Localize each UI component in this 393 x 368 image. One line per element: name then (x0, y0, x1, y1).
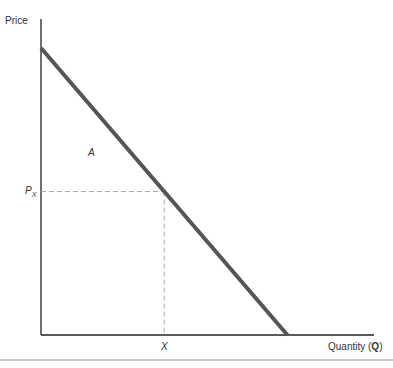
price-label: PX (25, 185, 37, 198)
y-axis-label: Price (5, 15, 28, 26)
x-axis-label-close: ) (379, 341, 382, 352)
price-label-subscript: X (31, 191, 37, 198)
x-axis-label-text: Quantity ( (328, 341, 372, 352)
demand-chart: Price A PX X Quantity (Q) (0, 0, 393, 368)
region-label-a: A (87, 147, 95, 158)
quantity-tick-label: X (160, 341, 168, 352)
x-axis-label: Quantity (Q) (328, 341, 382, 352)
